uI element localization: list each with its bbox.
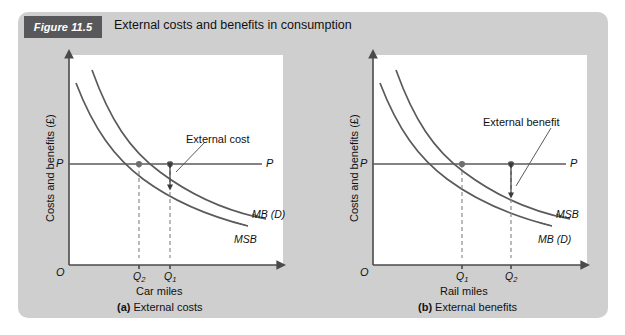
x-tick-q1-a: Q1 xyxy=(164,270,176,284)
y-axis-label-a: Costs and benefits (£) xyxy=(44,114,56,222)
x-tick-q2-a-letter: Q xyxy=(133,270,141,282)
x-tick-q2-b-letter: Q xyxy=(505,270,513,282)
figure-root: Figure 11.5 External costs and benefits … xyxy=(0,0,625,335)
price-label-right-b: P xyxy=(570,157,577,169)
caption-a-text: External costs xyxy=(134,301,203,313)
origin-label-b: O xyxy=(360,266,369,278)
curve-label-msb-b: MSB xyxy=(556,208,579,220)
x-tick-q1-b: Q1 xyxy=(456,270,468,284)
origin-label-a: O xyxy=(56,266,65,278)
caption-a-prefix: (a) xyxy=(117,301,130,313)
x-tick-q2-a: Q2 xyxy=(133,270,145,284)
caption-b: (b) External benefits xyxy=(418,301,517,313)
x-axis-label-a: Car miles xyxy=(136,285,182,297)
x-tick-q1-a-letter: Q xyxy=(164,270,172,282)
figure-number-badge: Figure 11.5 xyxy=(24,16,102,38)
curve-label-mb-d-b-sub: D xyxy=(560,233,568,245)
x-tick-q2-b: Q2 xyxy=(505,270,517,284)
x-tick-q2-b-sub: 2 xyxy=(513,275,517,284)
price-label-left-a: P xyxy=(56,157,63,169)
curve-label-mb-d-b-main: MB ( xyxy=(538,233,560,245)
curve-label-mb-d-a-sub: D xyxy=(274,208,282,220)
x-tick-q1-b-letter: Q xyxy=(456,270,464,282)
caption-b-text: External benefits xyxy=(435,301,517,313)
price-label-left-b: P xyxy=(360,157,367,169)
caption-a: (a) External costs xyxy=(117,301,203,313)
price-label-right-a: P xyxy=(266,157,273,169)
caption-b-prefix: (b) xyxy=(418,301,432,313)
x-tick-q1-b-sub: 1 xyxy=(464,275,468,284)
curve-label-mb-d-a: MB (D) xyxy=(252,208,285,220)
annotation-external-benefit-b: External benefit xyxy=(483,116,559,128)
annotation-external-cost-a: External cost xyxy=(186,133,250,145)
x-tick-q2-a-sub: 2 xyxy=(141,275,145,284)
curve-label-mb-d-a-main: MB ( xyxy=(252,208,274,220)
y-axis-label-b: Costs and benefits (£) xyxy=(348,114,360,222)
x-axis-label-b: Rail miles xyxy=(440,285,488,297)
curve-label-msb-a: MSB xyxy=(234,233,257,245)
curve-label-mb-d-b-tail: ) xyxy=(568,233,572,245)
figure-number-label: Figure 11.5 xyxy=(34,21,92,33)
curve-label-mb-d-b: MB (D) xyxy=(538,233,571,245)
figure-title: External costs and benefits in consumpti… xyxy=(114,18,352,32)
x-tick-q1-a-sub: 1 xyxy=(172,275,176,284)
curve-label-mb-d-a-tail: ) xyxy=(282,208,286,220)
